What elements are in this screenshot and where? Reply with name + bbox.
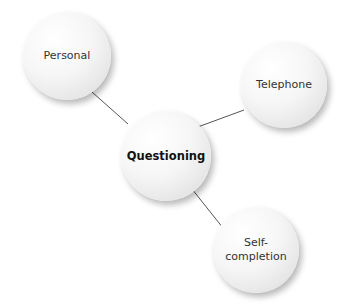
node-telephone: Telephone bbox=[241, 42, 327, 128]
node-label-line1: Self- bbox=[225, 236, 286, 250]
node-label: Telephone bbox=[256, 78, 312, 92]
node-personal: Personal bbox=[23, 12, 111, 100]
center-label: Questioning bbox=[127, 149, 206, 163]
diagram-canvas: Personal Telephone Self- completion Ques… bbox=[0, 0, 339, 307]
node-questioning-center: Questioning bbox=[121, 111, 211, 201]
edge-personal-questioning bbox=[92, 92, 128, 124]
node-label-line2: completion bbox=[225, 250, 286, 264]
edge-telephone-questioning bbox=[195, 110, 244, 128]
node-label: Personal bbox=[44, 49, 91, 63]
node-self-completion: Self- completion bbox=[213, 207, 299, 293]
